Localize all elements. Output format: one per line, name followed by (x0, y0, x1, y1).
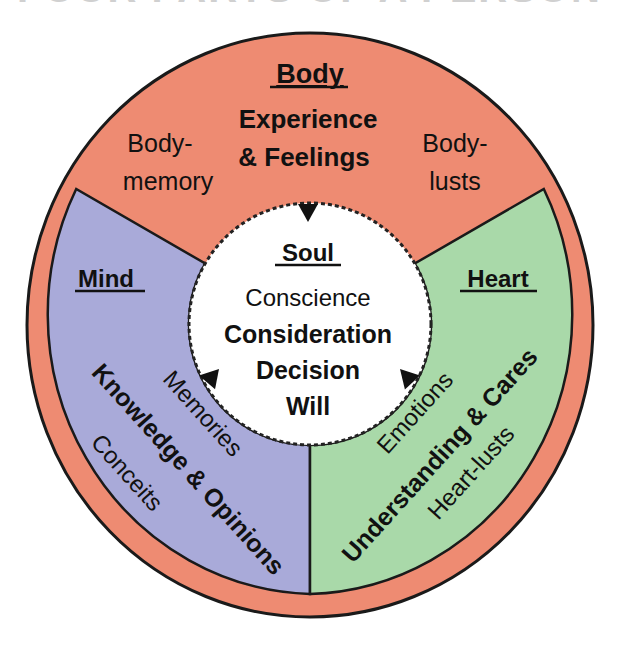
soul-line-will: Will (286, 392, 330, 420)
soul-heading: Soul (282, 239, 334, 266)
body-right-line2: lusts (429, 167, 480, 195)
soul-line-decision: Decision (256, 356, 360, 384)
soul-line-conscience: Conscience (245, 284, 370, 311)
body-left-line2: memory (123, 167, 214, 195)
body-main-line2: & Feelings (238, 142, 369, 172)
body-heading: Body (276, 59, 344, 89)
mind-heading: Mind (78, 265, 134, 292)
body-right-line1: Body- (422, 129, 487, 157)
diagram-canvas: Body Experience & Feelings Body- memory … (0, 0, 619, 646)
heart-heading: Heart (467, 265, 528, 292)
body-left-line1: Body- (127, 129, 192, 157)
soul-line-consideration: Consideration (224, 320, 392, 348)
body-main-line1: Experience (239, 104, 378, 134)
